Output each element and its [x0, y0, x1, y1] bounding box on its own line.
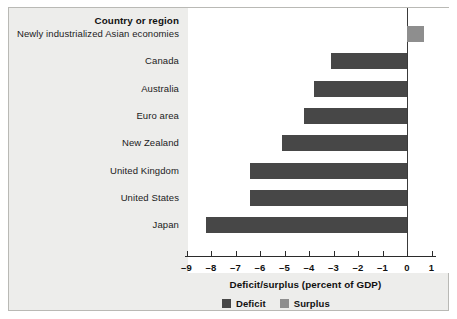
- category-label: Newly industrialized Asian economies: [9, 28, 179, 39]
- legend-swatch-icon: [222, 299, 231, 308]
- bar: [304, 108, 407, 124]
- value-axis-title: Deficit/surplus (percent of GDP): [230, 279, 382, 290]
- value-tick-mark: [334, 251, 335, 256]
- value-tick-mark: [358, 251, 359, 256]
- legend-swatch-icon: [280, 299, 289, 308]
- category-label: United Kingdom: [9, 165, 179, 176]
- bar: [250, 190, 407, 206]
- category-label: Canada: [9, 55, 179, 66]
- legend-item: Surplus: [280, 298, 330, 309]
- category-label: New Zealand: [9, 137, 179, 148]
- value-tick-mark: [432, 251, 433, 256]
- value-tick-mark: [407, 251, 408, 256]
- legend-label: Surplus: [294, 298, 330, 309]
- category-label: United States: [9, 192, 179, 203]
- legend-label: Deficit: [236, 298, 266, 309]
- value-tick-mark: [383, 251, 384, 256]
- value-tick-label: –4: [297, 262, 321, 273]
- bar: [206, 217, 407, 233]
- category-label: Euro area: [9, 110, 179, 121]
- value-tick-mark: [260, 251, 261, 256]
- category-axis: Country or region Newly industrialized A…: [9, 8, 179, 273]
- value-tick-label: –9: [175, 262, 199, 273]
- bar: [331, 53, 407, 69]
- value-tick-mark: [187, 251, 188, 256]
- legend-item: Deficit: [222, 298, 266, 309]
- value-tick-label: –8: [199, 262, 223, 273]
- value-tick-mark: [309, 251, 310, 256]
- plot-area: [188, 8, 450, 273]
- value-tick-label: –1: [371, 262, 395, 273]
- value-tick-mark: [211, 251, 212, 256]
- value-tick-mark: [236, 251, 237, 256]
- value-axis-line: [185, 256, 436, 257]
- category-axis-header: Country or region: [9, 15, 179, 26]
- bar: [250, 163, 407, 179]
- value-tick-label: 0: [395, 262, 419, 273]
- value-tick-label: –6: [248, 262, 272, 273]
- bar: [314, 81, 407, 97]
- chart-panel: Country or region Newly industrialized A…: [8, 7, 449, 311]
- chart-figure: Country or region Newly industrialized A…: [0, 0, 457, 319]
- chart-legend: DeficitSurplus: [222, 298, 330, 309]
- value-tick-label: –2: [346, 262, 370, 273]
- value-tick-label: 1: [420, 262, 444, 273]
- value-tick-label: –7: [224, 262, 248, 273]
- value-tick-label: –3: [322, 262, 346, 273]
- value-tick-label: –5: [273, 262, 297, 273]
- zero-baseline: [407, 8, 408, 255]
- category-label: Australia: [9, 83, 179, 94]
- value-tick-mark: [285, 251, 286, 256]
- bar: [282, 135, 407, 151]
- category-label: Japan: [9, 219, 179, 230]
- bar: [407, 26, 424, 42]
